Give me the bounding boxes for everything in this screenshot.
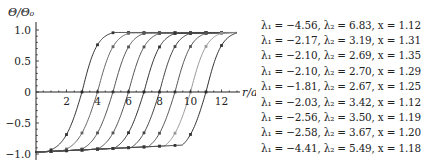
legend-item: λ₁ = −1.81, λ₂ = 2.67, x = 1.25 <box>257 79 414 94</box>
data-point-marker <box>143 46 146 49</box>
data-point-marker <box>127 131 130 134</box>
data-point-marker <box>81 149 84 152</box>
data-point-marker <box>143 32 146 35</box>
data-point-marker <box>174 144 177 147</box>
data-point-marker <box>158 46 161 49</box>
data-point-marker <box>189 32 192 35</box>
legend-item: λ₁ = −2.56, λ₂ = 3.50, x = 1.19 <box>257 109 414 124</box>
legend: λ₁ = −4.56, λ₂ = 6.83, x = 1.12λ₁ = −2.1… <box>257 17 414 156</box>
data-point-marker <box>174 132 177 135</box>
data-point-marker <box>174 32 177 35</box>
y-tick-label: −0.5 <box>6 117 32 129</box>
data-point-marker <box>158 32 161 35</box>
legend-item: λ₁ = −4.41, λ₂ = 5.49, x = 1.18 <box>257 140 414 155</box>
x-tick-label: 4 <box>94 95 101 107</box>
data-point-marker <box>143 131 146 134</box>
data-point-marker <box>127 32 130 35</box>
data-point-marker <box>220 32 223 35</box>
x-tick-label: 2 <box>63 95 70 107</box>
data-point-marker <box>65 149 68 152</box>
legend-item: λ₁ = −2.03, λ₂ = 3.42, x = 1.12 <box>257 94 414 109</box>
legend-label: λ₁ = −2.10, λ₂ = 2.70, x = 1.29 <box>261 65 421 77</box>
data-point-marker <box>112 31 115 34</box>
data-point-marker <box>50 150 53 153</box>
data-point-marker <box>112 131 115 134</box>
data-point-marker <box>127 146 130 149</box>
x-tick-label: 12 <box>215 95 228 107</box>
data-point-marker <box>65 133 68 136</box>
data-point-marker <box>158 145 161 148</box>
x-tick-label: 6 <box>125 95 132 107</box>
data-point-marker <box>220 44 223 47</box>
data-point-marker <box>158 132 161 135</box>
legend-item: λ₁ = −2.10, λ₂ = 2.69, x = 1.35 <box>257 48 414 63</box>
y-tick-label: −1.0 <box>6 148 32 160</box>
data-point-marker <box>96 131 99 134</box>
legend-label: λ₁ = −4.41, λ₂ = 5.49, x = 1.18 <box>261 142 421 154</box>
legend-label: λ₁ = −1.81, λ₂ = 2.67, x = 1.25 <box>261 80 421 92</box>
data-point-marker <box>96 43 99 46</box>
y-tick-label: 0 <box>24 86 31 98</box>
legend-label: λ₁ = −2.58, λ₂ = 3.67, x = 1.20 <box>261 126 421 138</box>
x-axis-label: r/a <box>242 86 256 99</box>
data-point-marker <box>112 147 115 150</box>
legend-label: λ₁ = −2.03, λ₂ = 3.42, x = 1.12 <box>261 96 421 108</box>
data-point-marker <box>174 45 177 48</box>
legend-item: λ₁ = −2.17, λ₂ = 3.19, x = 1.31 <box>257 32 414 47</box>
data-point-marker <box>96 148 99 151</box>
legend-label: λ₁ = −4.56, λ₂ = 6.83, x = 1.12 <box>261 19 421 31</box>
legend-item: λ₁ = −2.58, λ₂ = 3.67, x = 1.20 <box>257 125 414 140</box>
chart-plot: 24681012−1.0−0.500.51.0 Θ/Θ₀ r/a <box>0 0 256 167</box>
data-point-marker <box>205 32 208 35</box>
legend-label: λ₁ = −2.56, λ₂ = 3.50, x = 1.19 <box>261 111 421 123</box>
y-tick-label: 0.5 <box>14 55 31 67</box>
data-point-marker <box>81 132 84 135</box>
legend-item: λ₁ = −2.10, λ₂ = 2.70, x = 1.29 <box>257 63 414 78</box>
x-tick-label: 10 <box>184 95 197 107</box>
data-point-marker <box>189 133 192 136</box>
y-tick-label: 1.0 <box>14 24 31 36</box>
data-point-marker <box>205 45 208 48</box>
legend-label: λ₁ = −2.17, λ₂ = 3.19, x = 1.31 <box>261 34 421 46</box>
x-tick-label: 8 <box>156 95 163 107</box>
legend-label: λ₁ = −2.10, λ₂ = 2.69, x = 1.35 <box>261 49 421 61</box>
y-axis-label: Θ/Θ₀ <box>8 6 35 19</box>
legend-item: λ₁ = −4.56, λ₂ = 6.83, x = 1.12 <box>257 17 414 32</box>
data-point-marker <box>189 45 192 48</box>
data-point-marker <box>127 46 130 49</box>
data-point-marker <box>112 45 115 48</box>
data-point-marker <box>143 146 146 149</box>
